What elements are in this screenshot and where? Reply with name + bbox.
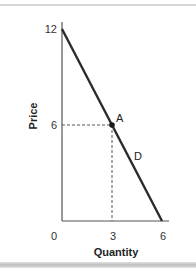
y-tick-6: 6 xyxy=(51,119,57,131)
point-a-label: A xyxy=(116,112,124,124)
y-axis-title: Price xyxy=(27,103,39,130)
x-axis-title: Quantity xyxy=(94,246,139,258)
point-a-marker xyxy=(109,122,115,128)
y-tick-12: 12 xyxy=(45,23,57,35)
x-tick-6: 6 xyxy=(160,230,166,242)
x-tick-0: 0 xyxy=(51,230,57,242)
curve-d-label: D xyxy=(134,150,142,162)
demand-chart: A D 12 6 0 3 6 Quantity Price xyxy=(0,0,196,276)
x-tick-3: 3 xyxy=(110,230,116,242)
